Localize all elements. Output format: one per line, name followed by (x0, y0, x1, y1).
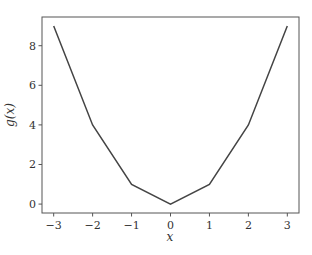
y-tick-label: 6 (29, 79, 36, 92)
line-chart: −3−2−10123 02468 x g(x) (0, 0, 312, 255)
x-tick-label: 3 (284, 219, 291, 232)
y-tick-label: 0 (29, 198, 36, 211)
axes-frame (42, 17, 299, 213)
x-tick-label: −2 (85, 219, 101, 232)
x-tick-label: −1 (123, 219, 139, 232)
x-tick-label: 1 (206, 219, 213, 232)
y-tick-label: 8 (29, 40, 36, 53)
y-tick-label: 4 (29, 119, 36, 132)
y-axis-label: g(x) (3, 103, 17, 127)
x-axis-label: x (167, 230, 174, 244)
x-tick-label: −3 (46, 219, 62, 232)
y-tick-label: 2 (29, 158, 36, 171)
y-axis-ticks: 02468 (29, 40, 42, 211)
series-line (54, 26, 288, 204)
x-tick-label: 2 (245, 219, 252, 232)
data-line (54, 26, 288, 204)
